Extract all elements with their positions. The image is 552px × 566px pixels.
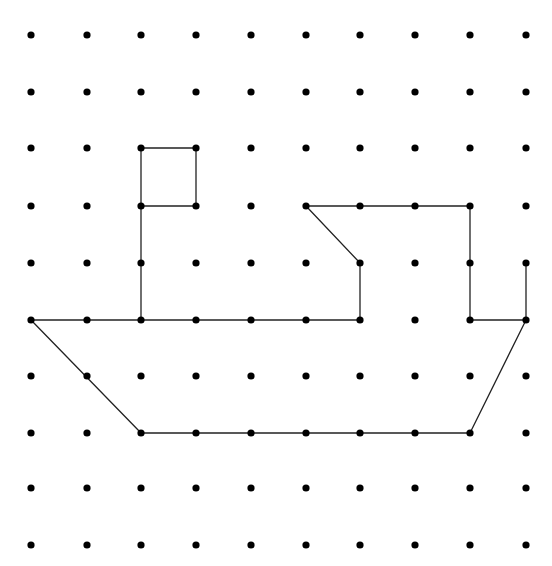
grid-dot [522,31,529,38]
grid-dot [192,202,199,209]
grid-dot [137,31,144,38]
grid-dot [83,372,90,379]
grid-dot [356,316,363,323]
boat-outline [31,148,526,433]
flag-line [141,148,196,206]
grid-dot [356,429,363,436]
grid-dot [192,541,199,548]
grid-dot [411,259,418,266]
grid-dot [192,31,199,38]
grid-dot [137,541,144,548]
grid-dot [411,88,418,95]
grid-dot [356,202,363,209]
grid-dot [466,541,473,548]
grid-dot [247,144,254,151]
grid-dot [302,484,309,491]
grid-dot [192,144,199,151]
grid-dot [302,259,309,266]
grid-dot [83,316,90,323]
hull-line [31,320,526,433]
grid-dot [192,259,199,266]
grid-dot [302,202,309,209]
grid-dot [466,484,473,491]
grid-dot [247,372,254,379]
grid-dot [83,484,90,491]
dot-grid-diagram [0,0,552,566]
grid-dot [83,31,90,38]
grid-dot [466,316,473,323]
grid-dot [83,88,90,95]
grid-dot [137,316,144,323]
grid-dot [411,202,418,209]
grid-dot [247,88,254,95]
grid-dot [522,372,529,379]
grid-dot [411,316,418,323]
grid-dot [411,31,418,38]
grid-dot [411,372,418,379]
grid-dot [247,429,254,436]
grid-dot [466,429,473,436]
grid-dot [522,429,529,436]
grid-dot [302,316,309,323]
grid-dot [302,429,309,436]
grid-dot [356,31,363,38]
grid-dot [27,144,34,151]
grid-dot [466,144,473,151]
grid-dot [247,202,254,209]
grid-dot [192,316,199,323]
grid-dot [137,372,144,379]
grid-dot [522,316,529,323]
grid-dot [466,259,473,266]
grid-dot [83,429,90,436]
grid-dot [411,429,418,436]
grid-dot [356,88,363,95]
grid-dot [27,429,34,436]
grid-dot [27,541,34,548]
grid-dot [27,88,34,95]
grid-dot [466,88,473,95]
grid-dot [137,259,144,266]
grid-dot [83,202,90,209]
grid-dot [247,316,254,323]
grid-dot [302,88,309,95]
grid-dot [83,144,90,151]
grid-dot [466,202,473,209]
grid-dot [247,31,254,38]
grid-dot [522,259,529,266]
grid-dot [27,316,34,323]
grid-dot [356,541,363,548]
grid-dot [27,202,34,209]
grid-dot [522,144,529,151]
grid-dot [27,259,34,266]
grid-dot [522,202,529,209]
grid-dot [356,372,363,379]
grid-dot [192,484,199,491]
grid-dot [192,372,199,379]
grid-dot [83,541,90,548]
grid-dot [27,484,34,491]
grid-dot [466,31,473,38]
grid-dot [247,541,254,548]
grid-dot [411,484,418,491]
grid-dot [411,144,418,151]
grid-dot [27,31,34,38]
grid-dot [522,88,529,95]
grid-dot [137,144,144,151]
grid-dot [27,372,34,379]
grid-dot [466,372,473,379]
grid-dot [522,541,529,548]
grid-dot [411,541,418,548]
grid-dot [356,259,363,266]
grid-dot [83,259,90,266]
grid-dot [302,31,309,38]
grid-dot [192,429,199,436]
grid-dot [302,372,309,379]
grid-dot [247,259,254,266]
grid-dot [522,484,529,491]
dot-grid [27,31,529,548]
grid-dot [247,484,254,491]
grid-dot [302,541,309,548]
grid-dot [137,88,144,95]
grid-dot [192,88,199,95]
grid-dot [137,429,144,436]
